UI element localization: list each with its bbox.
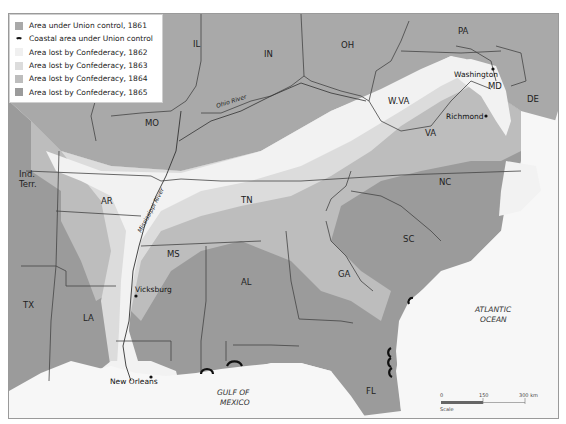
legend-label: Area lost by Confederacy, 1863 [29,61,147,70]
label-nc: NC [439,177,451,187]
label-oh: OH [341,40,354,50]
scale-tick-0: 0 [440,392,443,398]
label-gulf-2: MEXICO [220,398,250,407]
scale-tick-150: 150 [479,392,489,398]
swatch-union-1861 [15,22,23,30]
scale-tick-300: 300 km [519,392,538,398]
swatch-1863 [15,62,23,70]
label-il: IL [193,39,201,49]
vicksburg-dot [134,294,137,297]
swatch-1864 [15,75,23,83]
label-pa: PA [458,26,469,36]
legend-item-1864: Area lost by Confederacy, 1864 [15,72,157,85]
legend-item-1863: Area lost by Confederacy, 1863 [15,59,157,72]
label-fl: FL [366,386,376,396]
legend-label: Coastal area under Union control [29,34,153,43]
map-frame: IL IN OH PA MD DE W.VA VA MO Ind. Terr. … [8,13,559,419]
legend-label: Area lost by Confederacy, 1862 [29,48,147,57]
label-atlantic-1: ATLANTIC [474,305,512,314]
label-sc: SC [403,234,414,244]
label-wva: W.VA [388,96,409,106]
arc-icon [15,35,25,43]
label-vicksburg: Vicksburg [135,285,172,294]
label-mo: MO [145,118,159,128]
label-md: MD [488,81,502,91]
legend-label: Area lost by Confederacy, 1864 [29,74,147,83]
legend-item-1865: Area lost by Confederacy, 1865 [15,85,157,98]
label-al: AL [241,277,252,287]
legend-item-1862: Area lost by Confederacy, 1862 [15,46,157,59]
swatch-1862 [15,48,23,56]
legend-item-coastal: Coastal area under Union control [15,32,157,45]
label-ga: GA [338,269,351,279]
label-in: IN [264,49,273,59]
scale-label: Scale [440,406,453,412]
legend: Area under Union control, 1861 Coastal a… [9,14,163,103]
label-terr: Terr. [18,179,37,189]
label-tn: TN [240,195,253,205]
label-tx: TX [22,300,34,310]
swatch-1865 [15,88,23,96]
legend-label: Area lost by Confederacy, 1865 [29,88,147,97]
label-de: DE [527,94,539,104]
label-la: LA [83,313,94,323]
label-ind: Ind. [19,169,35,179]
label-washington: Washington [454,70,498,79]
richmond-dot [484,114,487,117]
legend-label: Area under Union control, 1861 [29,21,147,30]
legend-item-union-1861: Area under Union control, 1861 [15,19,157,32]
label-gulf-1: GULF OF [217,388,250,397]
label-atlantic-2: OCEAN [480,315,507,324]
label-ms: MS [167,249,180,259]
label-va: VA [425,128,436,138]
label-richmond: Richmond [446,112,484,121]
label-new-orleans: New Orleans [110,377,158,386]
label-ar: AR [101,196,113,206]
